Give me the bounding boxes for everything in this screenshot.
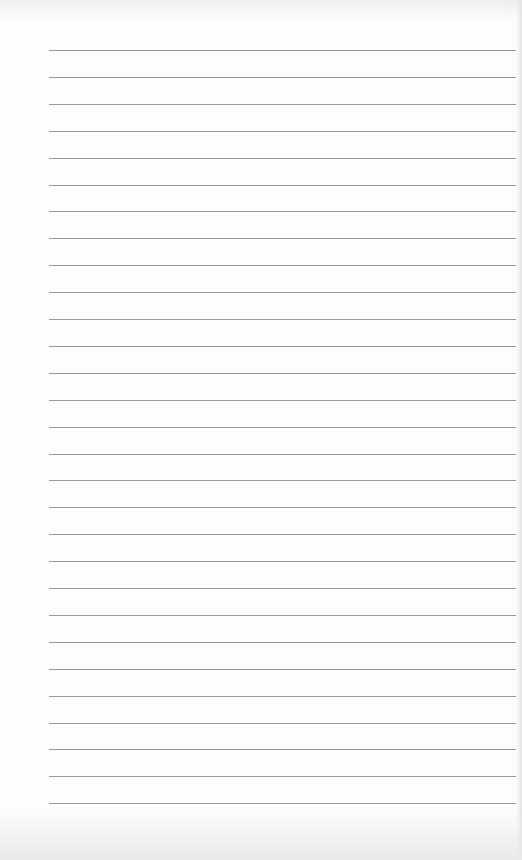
ruled-line — [49, 50, 516, 51]
bottom-shadow — [0, 810, 522, 860]
ruled-line — [49, 534, 516, 535]
ruled-line — [49, 292, 516, 293]
ruled-line — [49, 454, 516, 455]
page-edge — [516, 0, 522, 860]
ruled-line — [49, 238, 516, 239]
ruled-line — [49, 642, 516, 643]
ruled-line — [49, 776, 516, 777]
ruled-line — [49, 669, 516, 670]
ruled-line — [49, 373, 516, 374]
ruled-line — [49, 749, 516, 750]
ruled-line — [49, 507, 516, 508]
ruled-line — [49, 400, 516, 401]
ruled-line — [49, 561, 516, 562]
ruled-line — [49, 346, 516, 347]
ruled-line — [49, 723, 516, 724]
ruled-line — [49, 131, 516, 132]
ruled-line — [49, 319, 516, 320]
ruled-line — [49, 427, 516, 428]
ruled-line — [49, 211, 516, 212]
ruled-line — [49, 588, 516, 589]
ruled-line — [49, 77, 516, 78]
ruled-line — [49, 185, 516, 186]
ruled-line — [49, 265, 516, 266]
ruled-line — [49, 803, 516, 804]
ruled-line — [49, 104, 516, 105]
ruled-line — [49, 615, 516, 616]
ruled-line — [49, 480, 516, 481]
ruled-line — [49, 696, 516, 697]
ruled-line — [49, 158, 516, 159]
top-shadow — [0, 0, 522, 20]
